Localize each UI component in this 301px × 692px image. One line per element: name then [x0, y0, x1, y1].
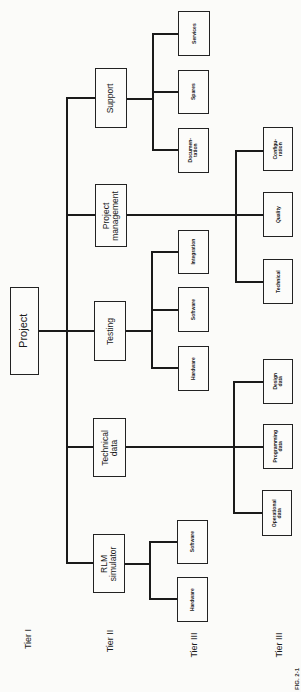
node-testing: Testing [94, 301, 126, 361]
pm-technical-link [235, 281, 263, 283]
node-technical-data: Technical data [93, 418, 126, 477]
node-label: Technical [275, 270, 280, 293]
node-label: Software [190, 531, 195, 552]
connector-rlm-simulator [66, 562, 93, 564]
node-technical: Technical [263, 259, 293, 304]
testing-out [125, 330, 152, 332]
tier-label-1: Tier I [23, 614, 33, 664]
tier-label-3b: Tier III [274, 620, 284, 670]
node-services: Services [178, 11, 210, 56]
node-testing-software: Software [178, 287, 209, 332]
node-label: Operational data [272, 499, 283, 527]
support-spares-link [152, 91, 178, 93]
pm-spine [235, 150, 237, 282]
node-rlm-hardware: Hardware [177, 577, 208, 622]
figure-caption: FIG. 2-1 [294, 560, 300, 690]
support-out [126, 98, 153, 100]
support-services-link [152, 33, 178, 35]
testing-integration-link [151, 251, 178, 253]
node-project: Project [10, 287, 39, 375]
root-connector [38, 330, 66, 332]
node-label: Hardware [191, 357, 196, 380]
node-documentation: Documen- tation [178, 128, 209, 173]
node-label: Software [191, 299, 196, 320]
node-rlm-simulator: RLM simulator [93, 534, 125, 593]
connector-testing [66, 330, 94, 332]
node-label: Spares [191, 84, 196, 101]
pm-out [126, 214, 264, 216]
pm-configuration-link [235, 150, 263, 152]
node-rlm-software: Software [177, 520, 208, 564]
techdata-design-link [233, 381, 263, 383]
node-operational-data: Operational data [262, 490, 292, 536]
node-label: Hardware [190, 588, 195, 611]
connector-support [66, 97, 95, 99]
support-documentation-link [152, 149, 178, 151]
techdata-spine [233, 381, 235, 514]
node-label: Testing [106, 318, 115, 345]
testing-hardware-link [151, 367, 178, 369]
rlm-out [124, 563, 150, 565]
tier-label-2: Tier II [105, 616, 115, 666]
node-label: Technical data [101, 430, 119, 465]
rlm-spine [149, 541, 151, 600]
connector-technical-data [66, 446, 93, 448]
node-support: Support [95, 68, 127, 128]
node-testing-hardware: Hardware [178, 346, 209, 391]
techdata-operational-link [233, 512, 263, 514]
node-label: Services [191, 23, 196, 44]
node-label: Support [107, 83, 116, 113]
node-label: Integration [191, 239, 196, 265]
node-project-management: Project management [95, 184, 127, 247]
rlm-hardware-link [149, 598, 178, 600]
caption-text: FIG. 2-1 [294, 668, 300, 690]
node-label: Project management [102, 191, 120, 241]
node-spares: Spares [178, 70, 209, 114]
testing-software-link [151, 309, 178, 311]
node-label: Design data [273, 373, 284, 390]
techdata-out [125, 446, 263, 448]
node-label: Quality [275, 206, 280, 223]
connector-project-management [66, 214, 95, 216]
node-integration: Integration [178, 230, 209, 274]
node-label: Programming data [273, 430, 284, 463]
node-label: Documen- tation [188, 138, 199, 162]
node-programming-data: Programming data [263, 424, 293, 469]
node-configuration: Configu- ration [263, 127, 293, 171]
node-label: RLM simulator [100, 546, 118, 580]
node-label: Project [19, 314, 31, 348]
node-label: Configu- ration [273, 139, 284, 160]
tier-label-3a: Tier III [189, 620, 199, 670]
rlm-software-link [149, 541, 178, 543]
node-quality: Quality [263, 192, 293, 237]
node-design-data: Design data [263, 359, 293, 404]
